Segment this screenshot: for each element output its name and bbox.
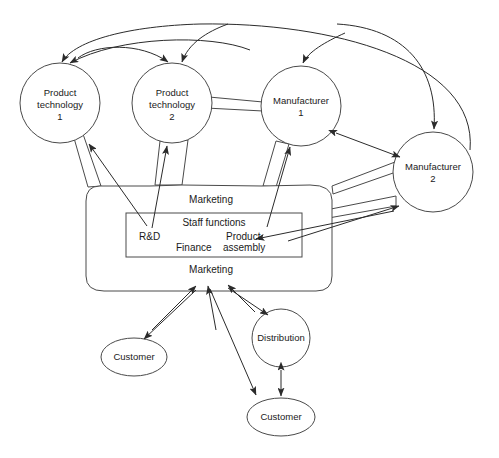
label-marketing-top: Marketing [189, 194, 233, 205]
label-rnd: R&D [139, 231, 160, 242]
label-customer-left: Customer [113, 351, 154, 362]
label-product-technology-2-line3: 2 [169, 111, 174, 122]
arrow-marketing-to-distribution[interactable] [228, 288, 268, 315]
label-product-technology-1-line1: Product [44, 87, 77, 98]
label-product-technology-1-line3: 1 [57, 111, 62, 122]
band-pt1-firm [74, 134, 101, 187]
arrow-manu1-to-pt1[interactable] [70, 40, 250, 63]
arrow-pt1-to-pt2[interactable] [78, 47, 168, 62]
label-manufacturer-1-line1: Manufacturer [273, 95, 329, 106]
diagram-root: Product technology 1 Product technology … [0, 0, 499, 458]
label-finance: Finance [176, 242, 212, 253]
label-marketing-bottom: Marketing [189, 264, 233, 275]
arrow-marketing-to-customer-left[interactable] [144, 290, 196, 339]
diagram-canvas: Product technology 1 Product technology … [0, 0, 499, 458]
band-pt2-firm [155, 140, 188, 185]
label-product-technology-1-line2: technology [37, 99, 83, 110]
label-distribution: Distribution [257, 332, 305, 343]
label-product-technology-2-line1: Product [156, 87, 189, 98]
arrow-top-to-manu2[interactable] [337, 24, 434, 129]
label-manufacturer-2-line1: Manufacturer [405, 161, 461, 172]
label-product-technology-2-line2: technology [149, 99, 195, 110]
label-product-assembly-line2: assembly [223, 242, 265, 253]
label-product-assembly-line1: Product [226, 231, 261, 242]
arrow-manu1-manu2-bidirectional[interactable] [336, 133, 400, 157]
band-firm-manu2 [332, 162, 396, 194]
band-pt2-manu1 [206, 97, 263, 111]
label-customer-bottom: Customer [260, 411, 301, 422]
arrow-customer-left-to-marketing[interactable] [152, 286, 196, 330]
label-manufacturer-1-line2: 1 [298, 107, 303, 118]
label-staff-functions: Staff functions [182, 217, 245, 228]
arrow-marketing-to-customer-bottom[interactable] [210, 289, 256, 395]
label-manufacturer-2-line2: 2 [430, 173, 435, 184]
